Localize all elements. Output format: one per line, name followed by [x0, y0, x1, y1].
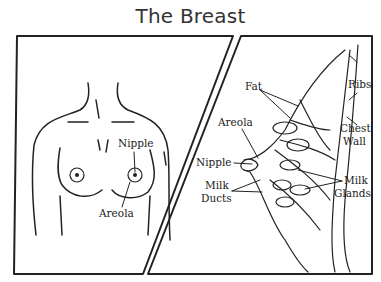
front-view-frame — [14, 36, 233, 274]
label-chest-wall-line2: Wall — [343, 135, 366, 147]
label-nipple-front: Nipple — [118, 137, 154, 149]
label-ribs: Ribs — [348, 78, 371, 90]
label-milk-ducts-line2: Ducts — [201, 192, 232, 204]
diagram-canvas: Nipple Areola — [0, 0, 381, 282]
label-areola-side: Areola — [217, 116, 253, 128]
label-chest-wall-line1: Chest — [340, 122, 371, 134]
label-milk-glands-line2: Glands — [334, 187, 371, 199]
side-view-panel: Fat Ribs Areola Chest Wall Nipple Milk D… — [148, 36, 372, 274]
front-view-panel: Nipple Areola — [14, 36, 233, 274]
label-milk-ducts-line1: Milk — [205, 179, 229, 191]
nipple-pointer — [134, 152, 135, 172]
areola-left-drawing — [70, 168, 84, 182]
label-areola-front: Areola — [98, 207, 134, 219]
label-nipple-side: Nipple — [196, 156, 232, 168]
areola-pointer — [122, 182, 130, 207]
label-milk-glands-line1: Milk — [344, 174, 368, 186]
label-fat: Fat — [245, 80, 263, 92]
